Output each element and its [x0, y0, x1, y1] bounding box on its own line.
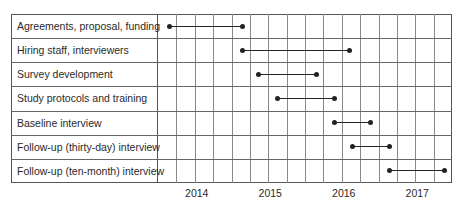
task-bar — [278, 98, 335, 99]
x-tick-label: 2014 — [185, 187, 208, 199]
grid-line-vertical — [213, 14, 214, 183]
task-bar — [243, 50, 350, 51]
task-end-marker — [347, 48, 352, 53]
grid-line-vertical — [342, 14, 343, 183]
row-separator — [11, 111, 452, 112]
task-end-marker — [332, 96, 337, 101]
task-label: Follow-up (ten-month) interview — [17, 159, 164, 183]
task-label: Study protocols and training — [17, 86, 147, 110]
task-start-marker — [240, 48, 245, 53]
grid-line-vertical — [415, 14, 416, 183]
row-separator — [11, 62, 452, 63]
x-tick-label: 2016 — [332, 187, 355, 199]
row-separator — [11, 159, 452, 160]
row-separator — [11, 135, 452, 136]
grid-line-vertical — [250, 14, 251, 183]
x-tick-label: 2017 — [406, 187, 429, 199]
task-label: Survey development — [17, 62, 113, 86]
grid-line-vertical — [195, 14, 196, 183]
grid-line-vertical — [232, 14, 233, 183]
task-end-marker — [240, 24, 245, 29]
gantt-chart: Agreements, proposal, fundingHiring staf… — [0, 0, 460, 205]
task-label-column: Agreements, proposal, fundingHiring staf… — [11, 14, 158, 183]
grid-line-vertical — [176, 14, 177, 183]
task-bar — [259, 74, 316, 75]
task-label: Follow-up (thirty-day) interview — [17, 135, 160, 159]
grid-line-vertical — [360, 14, 361, 183]
row-separator — [11, 86, 452, 87]
task-start-marker — [350, 144, 355, 149]
row-separator — [11, 38, 452, 39]
grid-line-vertical — [434, 14, 435, 183]
task-start-marker — [167, 24, 172, 29]
task-bar — [390, 170, 445, 171]
task-bar — [352, 146, 389, 147]
task-bar — [170, 26, 243, 27]
x-tick-label: 2015 — [259, 187, 282, 199]
grid-line-vertical — [379, 14, 380, 183]
task-label: Hiring staff, interviewers — [17, 38, 129, 62]
task-label: Baseline interview — [17, 111, 102, 135]
task-label: Agreements, proposal, funding — [17, 14, 160, 38]
task-end-marker — [314, 72, 319, 77]
task-bar — [334, 122, 370, 123]
grid-line-vertical — [268, 14, 269, 183]
grid-line-vertical — [397, 14, 398, 183]
